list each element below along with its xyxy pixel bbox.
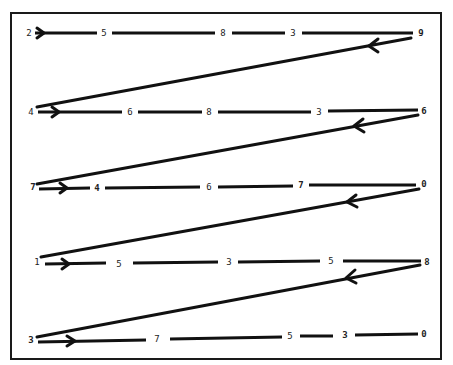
row-2-digit-1: 4 [28, 107, 33, 117]
row-1-digit-3: 8 [220, 28, 225, 38]
row-3: 7 4 6 7 0 [30, 179, 426, 194]
row-4-digit-5: 8 [424, 257, 429, 267]
row-5-digit-4: 3 [342, 330, 347, 340]
row-1-digit-2: 5 [101, 28, 106, 38]
row-2-digit-2: 6 [127, 107, 132, 117]
row-3-digit-5: 0 [421, 179, 426, 189]
return-line-1 [37, 38, 411, 107]
zigzag-reading-diagram: 2 5 8 3 9 4 6 8 3 6 7 4 6 [0, 0, 453, 365]
return-line-4 [37, 265, 420, 337]
row-4-digit-4: 5 [328, 256, 333, 266]
row-4-digit-2: 5 [116, 259, 121, 269]
row-3-digit-4: 7 [298, 180, 303, 190]
row-2-digit-5: 6 [421, 106, 426, 116]
row-5-digit-2: 7 [154, 334, 159, 344]
row-1-digit-1: 2 [26, 28, 31, 38]
return-line-2 [37, 115, 418, 184]
row-5-digit-5: 0 [421, 329, 426, 339]
row-5-digit-1: 3 [28, 335, 33, 345]
row-3-digit-2: 4 [94, 183, 100, 193]
row-4-digit-1: 1 [34, 257, 39, 267]
row-1-digit-4: 3 [290, 28, 295, 38]
row-4: 1 5 3 5 8 [34, 256, 429, 270]
row-1-digit-5: 9 [418, 28, 423, 38]
row-2-digit-3: 8 [206, 107, 211, 117]
row-4-digit-3: 3 [226, 257, 231, 267]
row-1: 2 5 8 3 9 [26, 28, 423, 39]
row-2: 4 6 8 3 6 [28, 106, 426, 118]
row-3-digit-3: 6 [206, 182, 211, 192]
row-5: 3 7 5 3 0 [28, 329, 426, 347]
row-2-digit-4: 3 [316, 107, 321, 117]
return-line-3 [41, 189, 419, 257]
row-3-digit-1: 7 [30, 182, 35, 192]
row-5-digit-3: 5 [287, 331, 292, 341]
